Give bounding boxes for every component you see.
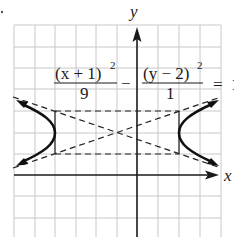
term2-exponent: 2 — [197, 59, 203, 71]
corner-mark — [1, 11, 3, 13]
term2-numerator: (y − 2) — [143, 64, 189, 83]
minus-operator: − — [121, 74, 131, 93]
term1-denominator: 9 — [80, 84, 89, 103]
term1-numerator: (x + 1) — [55, 64, 101, 83]
hyperbola-graph: x y (x + 1) 2 9 − (y − 2) 2 1 = 1 — [0, 0, 234, 237]
term1-exponent: 2 — [110, 59, 116, 71]
x-axis-label: x — [223, 166, 232, 185]
y-axis-label: y — [128, 2, 138, 21]
rhs-value: 1 — [231, 75, 234, 94]
equals-sign: = — [213, 75, 223, 94]
grid — [14, 25, 221, 237]
term2-denominator: 1 — [166, 84, 175, 103]
